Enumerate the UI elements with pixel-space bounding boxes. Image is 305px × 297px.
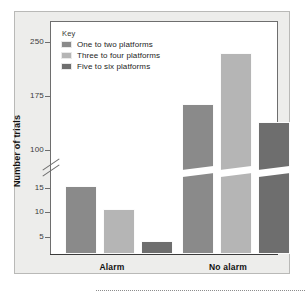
- legend-swatch-icon: [61, 41, 72, 48]
- y-axis-tick: [45, 212, 50, 213]
- bar-noalarm-one-to-two: [182, 104, 214, 254]
- y-axis-tick: [45, 150, 50, 151]
- bar-break-marker: [180, 166, 217, 177]
- y-axis-tick-label: 175: [4, 91, 44, 100]
- y-axis-tick-label: 15: [4, 183, 44, 192]
- legend-item: One to two platforms: [61, 40, 176, 49]
- legend-item-label: Five to six platforms: [77, 62, 150, 71]
- y-axis-tick: [45, 42, 50, 43]
- y-axis-tick: [45, 237, 50, 238]
- bar-alarm-three-to-four: [103, 209, 135, 254]
- legend-item-label: One to two platforms: [77, 40, 153, 49]
- legend-item: Five to six platforms: [61, 62, 176, 71]
- legend-swatch-icon: [61, 63, 72, 70]
- bar-break-marker: [256, 166, 293, 177]
- y-axis-tick: [45, 96, 50, 97]
- legend-items: One to two platformsThree to four platfo…: [61, 40, 176, 71]
- y-axis-tick-label: 5: [4, 232, 44, 241]
- x-axis-group-label: Alarm: [72, 262, 152, 272]
- bar-noalarm-five-to-six: [258, 122, 290, 254]
- legend-swatch-icon: [61, 52, 72, 59]
- legend-item: Three to four platforms: [61, 51, 176, 60]
- bar-alarm-one-to-two: [65, 186, 97, 254]
- y-axis-tick: [45, 188, 50, 189]
- y-axis-tick-label: 10: [4, 207, 44, 216]
- y-axis-tick-label: 100: [4, 145, 44, 154]
- y-axis-tick-labels: 25017510015105: [0, 0, 44, 297]
- bar-alarm-five-to-six: [141, 241, 173, 254]
- bottom-dotted-rule: [96, 290, 305, 291]
- x-axis-group-label: No alarm: [188, 262, 268, 272]
- legend-item-label: Three to four platforms: [77, 51, 160, 60]
- legend-title: Key: [62, 29, 176, 38]
- x-axis-line: [50, 254, 278, 255]
- legend: Key One to two platformsThree to four pl…: [57, 27, 179, 76]
- bar-break-marker: [218, 166, 255, 177]
- chart-figure: Number of trials 25017510015105 Key One …: [0, 0, 305, 297]
- bar-noalarm-three-to-four: [220, 53, 252, 254]
- y-axis-tick-label: 250: [4, 37, 44, 46]
